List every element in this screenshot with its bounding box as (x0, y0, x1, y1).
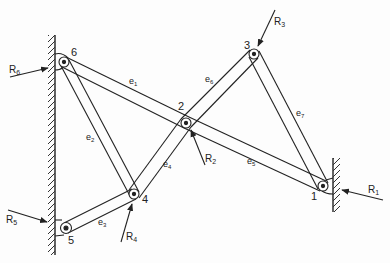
member-e7 (249, 51, 328, 189)
member-label-e7: e7 (296, 108, 305, 119)
force-arrow-R2 (191, 130, 205, 165)
joint-3 (249, 49, 259, 59)
member-label-e3: e3 (98, 217, 107, 228)
member-e4 (129, 119, 191, 198)
member-e6 (181, 50, 258, 127)
member-e2 (60, 60, 139, 196)
member-label-e1: e1 (129, 76, 138, 87)
left-wall-support (48, 35, 55, 255)
joint-4 (129, 189, 139, 199)
force-label-R5: R5 (6, 214, 17, 226)
force-label-R1: R1 (368, 184, 379, 196)
right-wall-support (333, 158, 340, 212)
force-label-R3: R3 (274, 16, 285, 28)
force-label-R6: R6 (9, 64, 20, 76)
joint-2 (181, 118, 191, 128)
force-label-R4: R4 (126, 231, 137, 243)
member-label-e5: e5 (247, 156, 256, 167)
joint-label-2: 2 (178, 100, 184, 112)
force-arrow-R3 (258, 10, 275, 46)
joint-label-1: 1 (311, 190, 317, 202)
joint-5 (61, 223, 72, 234)
member-e1 (62, 57, 189, 128)
joint-label-3: 3 (244, 39, 250, 51)
member-label-e2: e2 (86, 132, 95, 143)
joint-label-5: 5 (68, 234, 74, 246)
joint-label-6: 6 (71, 46, 77, 58)
joint-1 (318, 181, 328, 191)
member-label-e4: e4 (163, 159, 172, 170)
member-label-e6: e6 (205, 74, 214, 85)
truss-diagram: 1 2 3 4 5 6 e1 e2 e3 e4 e5 e6 e7 R1 R2 R… (0, 0, 390, 263)
joint-label-4: 4 (142, 193, 148, 205)
force-label-R2: R2 (205, 153, 216, 165)
joint-6 (59, 57, 69, 67)
